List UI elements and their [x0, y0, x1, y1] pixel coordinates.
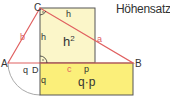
height-label-top: h — [66, 9, 71, 19]
hoehensatz-diagram: C A B D b a c h h h2 q p q q·p — [0, 0, 170, 102]
height-label-left: h — [41, 32, 46, 42]
vertex-label-b: B — [135, 58, 142, 69]
vertex-label-d: D — [32, 65, 39, 75]
side-label-a: a — [97, 34, 102, 44]
vertex-label-c: C — [34, 2, 41, 13]
rect-side-label-q: q — [41, 75, 46, 85]
side-label-b: b — [20, 32, 25, 42]
segment-label-q: q — [23, 65, 28, 75]
rect-area-label: q·p — [78, 75, 96, 89]
segment-label-p: p — [84, 64, 89, 74]
side-label-c: c — [67, 64, 72, 74]
right-angle-dot-c — [42, 11, 43, 12]
vertex-label-a: A — [1, 58, 8, 69]
right-angle-dot-d — [42, 59, 43, 60]
